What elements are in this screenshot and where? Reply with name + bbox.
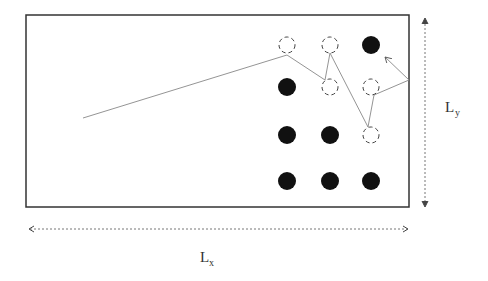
lx-label: L <box>200 249 209 265</box>
ly-subscript: y <box>455 107 460 118</box>
lx-subscript: x <box>209 257 214 268</box>
diagram-canvas: L x L y <box>0 0 488 281</box>
ly-label: L <box>445 99 454 115</box>
random-walk-path <box>83 53 409 127</box>
domain-box <box>26 15 409 207</box>
